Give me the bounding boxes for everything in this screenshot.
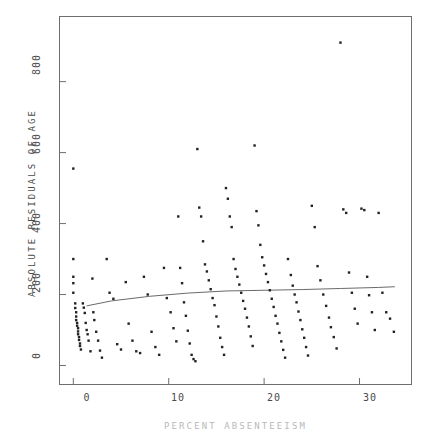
x-tick-label-20: 20 [260,392,288,403]
y-tick-label-800: 800 [31,53,42,77]
scatter-plot-figure: 0 200 400 600 800 0 10 20 30 ABSOLUTE RE… [0,0,427,430]
x-tick-label-10: 10 [164,392,192,403]
x-axis-title: PERCENT ABSENTEEISM [59,421,412,430]
y-tick-label-0: 0 [31,344,42,368]
plot-frame [59,16,412,385]
y-axis-title: ABSOLUTE RESIDUALS OF AGE [27,88,37,318]
x-tick-label-0: 0 [73,392,101,403]
x-tick-label-30: 30 [356,392,384,403]
